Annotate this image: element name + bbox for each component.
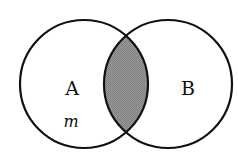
element-m-label: m — [63, 112, 78, 131]
set-a-label: A — [64, 77, 79, 99]
set-b-label: B — [181, 77, 195, 99]
venn-diagram: A B m — [0, 0, 238, 163]
